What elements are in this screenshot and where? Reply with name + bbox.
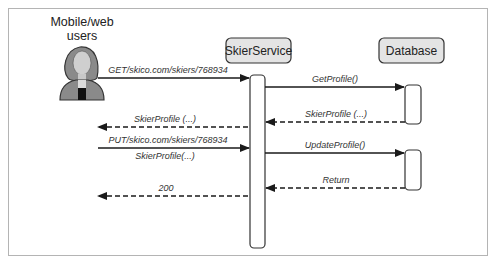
message-skierprofile-db-return: SkierProfile (...) <box>266 109 405 122</box>
message-put-label: PUT/skico.com/skiers/768934 <box>108 135 227 145</box>
message-get-request: GET/skico.com/skiers/768934 <box>98 65 249 78</box>
message-return-label: Return <box>322 175 349 185</box>
actor-label-line2: users <box>67 29 98 43</box>
sequence-diagram: Mobile/web users SkierService Database G… <box>0 0 493 260</box>
message-200-label: 200 <box>157 183 173 193</box>
participant-database: Database <box>379 38 444 63</box>
participant-skierservice: SkierService <box>225 38 293 63</box>
message-getprofile-label: GetProfile() <box>312 74 358 84</box>
database-activation-bar-1 <box>405 85 421 124</box>
database-activation-bar-2 <box>405 150 421 190</box>
message-getprofile: GetProfile() <box>265 74 404 87</box>
participant-skierservice-label: SkierService <box>225 44 293 58</box>
message-get-label: GET/skico.com/skiers/768934 <box>108 65 228 75</box>
actor-label-line1: Mobile/web <box>50 15 113 29</box>
message-skierprofile-db-label: SkierProfile (...) <box>305 109 367 119</box>
participant-database-label: Database <box>386 44 438 58</box>
message-put-sublabel: SkierProfile(...) <box>135 151 195 161</box>
message-skierprofile-user-label: SkierProfile (...) <box>134 114 196 124</box>
message-return: Return <box>266 175 405 188</box>
message-updateprofile-label: UpdateProfile() <box>305 140 366 150</box>
message-updateprofile: UpdateProfile() <box>265 140 404 153</box>
message-put-request: PUT/skico.com/skiers/768934 SkierProfile… <box>98 135 249 161</box>
message-skierprofile-user-return: SkierProfile (...) <box>98 114 248 127</box>
user-icon <box>60 47 104 100</box>
skierservice-activation-bar <box>250 75 265 248</box>
message-200-response: 200 <box>98 183 248 196</box>
